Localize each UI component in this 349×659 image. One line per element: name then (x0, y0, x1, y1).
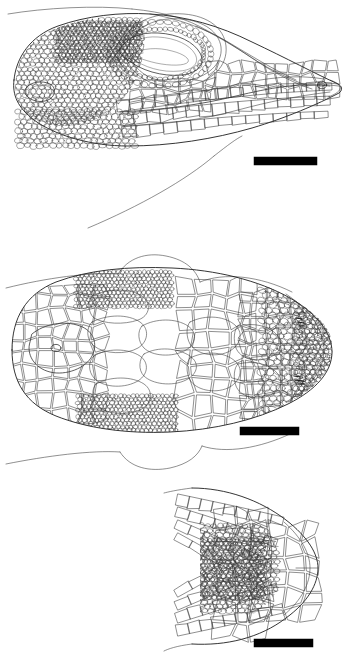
neck-ventral-line-2 (214, 136, 242, 156)
scale-bar (254, 157, 317, 165)
dorsal-head-drawing (0, 230, 349, 470)
jaw-line-lower (164, 644, 192, 651)
internasal-left (234, 324, 281, 359)
neck-ventral-line (88, 156, 214, 228)
mental-inner-contour (284, 522, 310, 615)
neck-dorsal-line (8, 7, 132, 14)
orbit-inner-ring (129, 19, 221, 82)
nuchal-hump-bottom (120, 446, 202, 469)
supraocular-granules (73, 269, 179, 433)
scale-bar (240, 427, 299, 435)
ventral-chin-drawing (0, 470, 349, 659)
nuchal-line-bottom (6, 452, 120, 464)
scientific-figure (0, 0, 349, 659)
frontoparietal-left (88, 316, 147, 353)
panel-ventral-view (0, 470, 349, 659)
loreal-snout-scales (205, 60, 340, 100)
lateral-head-drawing (0, 0, 349, 230)
lower-jaw-granules (14, 108, 139, 150)
chin-shields (212, 506, 323, 642)
panel-dorsal-view (0, 230, 349, 470)
scale-bar (254, 639, 313, 647)
interparietal-scale (29, 323, 95, 373)
frontonasal-scale (140, 349, 197, 384)
nuchal-line-bottom-2 (202, 434, 290, 450)
jaw-line-upper (164, 488, 192, 493)
panel-lateral-view (0, 0, 349, 230)
infralabial-scales (120, 96, 330, 137)
nuchal-line-top-2 (200, 277, 292, 292)
